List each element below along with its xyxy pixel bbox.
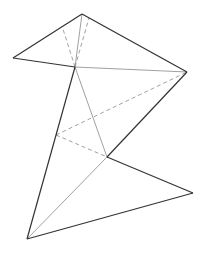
solid-edge-AD bbox=[82, 14, 187, 72]
thin-edge-CD bbox=[75, 67, 187, 72]
solid-edge-AB bbox=[13, 14, 82, 58]
solid-edge-FG bbox=[27, 193, 193, 239]
solid-edge-BC bbox=[13, 58, 75, 67]
geometry-diagram bbox=[0, 0, 204, 253]
thin-edge-AC bbox=[75, 14, 82, 67]
dashed-edge-HE bbox=[56, 135, 107, 157]
dashed-edge-CP1 bbox=[62, 26, 75, 67]
solid-edge-DE bbox=[107, 72, 187, 157]
dashed-edge-HD bbox=[56, 72, 187, 135]
diagram-canvas bbox=[0, 0, 204, 253]
dashed-edge-CP2 bbox=[75, 18, 89, 67]
thin-edge-CE bbox=[75, 67, 107, 157]
solid-edge-EF bbox=[107, 157, 193, 193]
solid-edge-CG bbox=[27, 67, 75, 239]
